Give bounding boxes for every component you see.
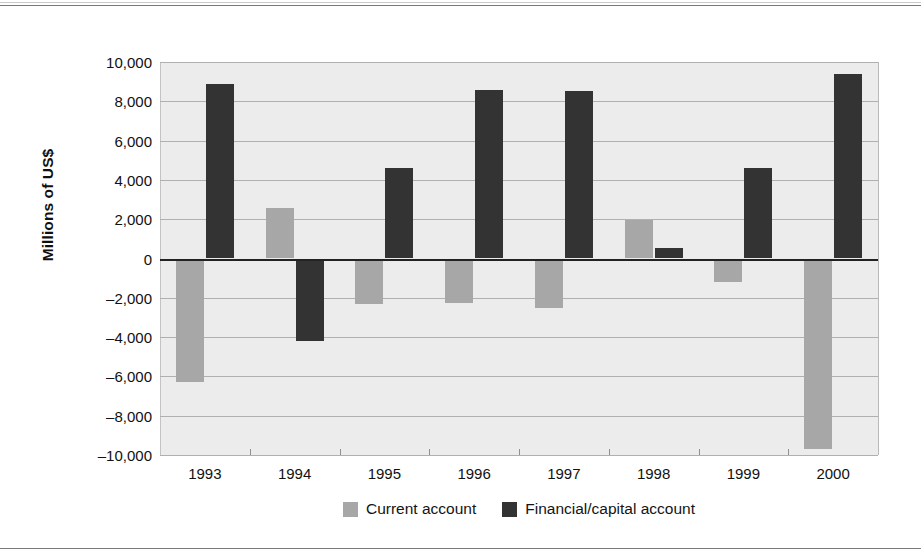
y-tick-label: 2,000 [40,212,152,227]
bar-financial-capital-account-1997 [565,91,593,258]
gridline [160,376,878,377]
y-tick-label: –4,000 [40,330,152,345]
bar-financial-capital-account-1999 [744,168,772,258]
zero-axis-line [160,259,878,261]
y-tick-label: 8,000 [40,94,152,109]
gridline [160,298,878,299]
y-tick-label: –6,000 [40,369,152,384]
legend-swatch-icon [502,502,517,517]
x-tick-label-1993: 1993 [160,464,250,484]
x-tick-label-1997: 1997 [519,464,609,484]
bar-financial-capital-account-1996 [475,90,503,259]
y-tick-label: 10,000 [40,55,152,70]
bar-current-account-1996 [445,259,473,304]
legend-swatch-icon [343,502,358,517]
bar-financial-capital-account-2000 [834,74,862,259]
x-tick-label-1994: 1994 [250,464,340,484]
bar-current-account-1998 [625,220,653,258]
legend-item[interactable]: Current account [343,500,476,518]
x-axis-tick [519,449,520,455]
x-tick-label-1999: 1999 [698,464,788,484]
bar-financial-capital-account-1993 [206,84,234,259]
y-axis-tick-labels: 10,0008,0006,0004,0002,0000–2,000–4,000–… [40,62,152,455]
gridline [160,337,878,338]
gridline [160,62,878,63]
x-tick-label-2000: 2000 [788,464,878,484]
gridline [160,101,878,102]
x-axis-tick [429,449,430,455]
legend-label: Current account [366,500,476,518]
x-tick-label-1998: 1998 [609,464,699,484]
bar-current-account-1993 [176,259,204,383]
chart-legend: Current accountFinancial/capital account [160,500,878,518]
x-axis-tick [609,449,610,455]
x-tick-label-1996: 1996 [429,464,519,484]
bar-financial-capital-account-1998 [655,248,683,259]
bar-current-account-1994 [266,208,294,258]
y-tick-label: 4,000 [40,172,152,187]
bar-financial-capital-account-1994 [296,259,324,342]
y-tick-label: –8,000 [40,408,152,423]
x-axis-tick-labels: 19931994199519961997199819992000 [160,464,878,488]
x-tick-label-1995: 1995 [339,464,429,484]
gridline [160,141,878,142]
y-tick-label: –10,000 [40,448,152,463]
gridline [160,455,878,456]
y-tick-label: –2,000 [40,290,152,305]
y-tick-label: 0 [40,251,152,266]
x-axis-tick [340,449,341,455]
legend-item[interactable]: Financial/capital account [502,500,695,518]
gridline [160,416,878,417]
bar-current-account-1995 [355,259,383,304]
x-axis-tick [788,449,789,455]
bar-current-account-2000 [804,259,832,450]
bar-current-account-1999 [714,259,742,283]
bar-financial-capital-account-1995 [385,168,413,258]
page-rule-thin-top [0,2,921,3]
x-axis-tick [250,449,251,455]
bar-current-account-1997 [535,259,563,308]
x-axis-tick [699,449,700,455]
y-tick-label: 6,000 [40,133,152,148]
bar-chart-figure: Millions of US$ 10,0008,0006,0004,0002,0… [0,6,921,546]
page-rule-bottom [0,548,921,549]
plot-area [160,62,879,455]
legend-label: Financial/capital account [525,500,695,518]
